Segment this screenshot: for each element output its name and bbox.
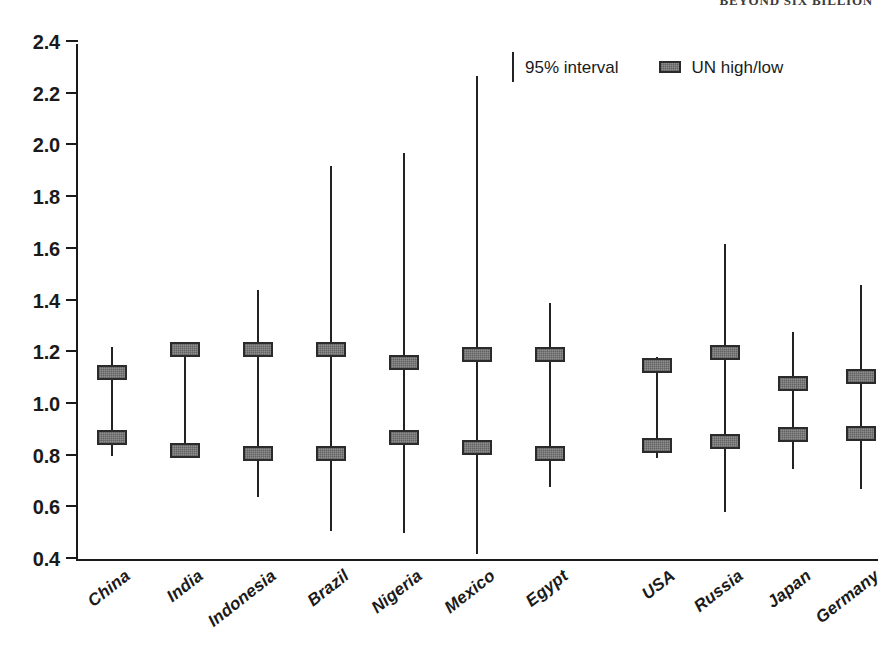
y-axis-tick-label: 0.8 xyxy=(33,444,60,467)
interval-line xyxy=(724,244,726,513)
y-axis-tick-label: 1.2 xyxy=(33,341,60,364)
un-high-marker xyxy=(97,365,127,380)
un-high-marker xyxy=(389,355,419,370)
un-low-marker xyxy=(846,426,876,441)
running-head: BEYOND SIX BILLION xyxy=(720,0,873,9)
y-axis-tick: 2.2 xyxy=(66,92,78,94)
x-axis-label-china: China xyxy=(84,566,134,611)
x-axis-label-russia: Russia xyxy=(690,566,747,617)
x-axis-label-usa: USA xyxy=(638,566,679,604)
un-high-marker xyxy=(846,369,876,384)
y-axis-tick-label: 1.6 xyxy=(33,237,60,260)
y-axis-tick: 1.0 xyxy=(66,402,78,404)
y-axis-tick: 2.4 xyxy=(66,40,78,42)
un-high-marker xyxy=(778,376,808,391)
y-axis-tick: 1.6 xyxy=(66,247,78,249)
un-high-marker xyxy=(710,345,740,360)
un-high-marker xyxy=(170,342,200,357)
y-axis-tick: 0.8 xyxy=(66,454,78,456)
x-axis-label-mexico: Mexico xyxy=(441,566,500,618)
un-low-marker xyxy=(170,443,200,458)
un-low-marker xyxy=(316,446,346,461)
un-high-marker xyxy=(243,342,273,357)
y-axis-tick-label: 2.4 xyxy=(33,31,60,54)
y-axis-tick: 0.4 xyxy=(66,557,78,559)
y-axis-tick-label: 2.0 xyxy=(33,134,60,157)
interval-line xyxy=(403,153,405,533)
un-low-marker xyxy=(97,430,127,445)
y-axis-tick: 0.6 xyxy=(66,505,78,507)
y-axis-tick-label: 1.0 xyxy=(33,392,60,415)
un-low-marker xyxy=(389,430,419,445)
plot-area: 0.40.60.81.01.21.41.61.82.02.22.4 xyxy=(76,44,878,561)
un-high-marker xyxy=(535,347,565,362)
x-axis-label-egypt: Egypt xyxy=(522,566,572,611)
x-axis-label-germany: Germany xyxy=(812,566,883,628)
interval-line xyxy=(476,76,478,554)
un-low-marker xyxy=(535,446,565,461)
interval-line xyxy=(792,332,794,469)
un-low-marker xyxy=(710,434,740,449)
interval-line xyxy=(860,285,862,489)
un-high-marker xyxy=(642,358,672,373)
interval-line xyxy=(184,344,186,458)
un-high-marker xyxy=(462,347,492,362)
y-axis-tick-label: 2.2 xyxy=(33,82,60,105)
un-low-marker xyxy=(642,438,672,453)
un-high-marker xyxy=(316,342,346,357)
y-axis-tick: 1.8 xyxy=(66,195,78,197)
un-low-marker xyxy=(462,440,492,455)
x-axis-label-japan: Japan xyxy=(764,566,816,613)
un-low-marker xyxy=(778,427,808,442)
y-axis-tick: 1.4 xyxy=(66,299,78,301)
y-axis-tick-label: 1.8 xyxy=(33,186,60,209)
x-axis-label-brazil: Brazil xyxy=(304,566,354,611)
y-axis-tick: 1.2 xyxy=(66,350,78,352)
x-axis-label-nigeria: Nigeria xyxy=(368,566,427,618)
interval-line xyxy=(257,290,259,497)
y-axis-tick-label: 0.4 xyxy=(33,548,60,571)
x-axis-label-indonesia: Indonesia xyxy=(204,566,280,632)
y-axis-tick-label: 0.6 xyxy=(33,496,60,519)
x-axis-label-india: India xyxy=(163,566,207,607)
y-axis-tick-label: 1.4 xyxy=(33,289,60,312)
y-axis-tick: 2.0 xyxy=(66,143,78,145)
un-low-marker xyxy=(243,446,273,461)
chart-figure: BEYOND SIX BILLION 95% interval UN high/… xyxy=(0,0,893,667)
